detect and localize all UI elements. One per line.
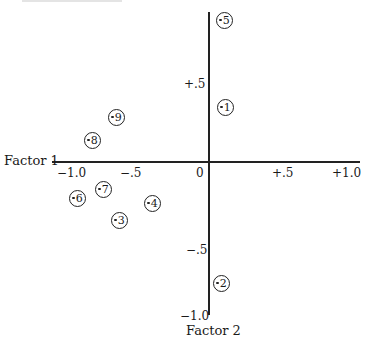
y-tick-plus-half: +.5 bbox=[184, 78, 206, 90]
data-point-5: 5 bbox=[216, 12, 233, 29]
x-tick-plus-1: +1.0 bbox=[332, 167, 361, 179]
point-label: 5 bbox=[223, 14, 230, 27]
point-label: 3 bbox=[118, 214, 125, 227]
x-axis-title: Factor 1 bbox=[4, 155, 59, 167]
x-tick-zero: 0 bbox=[196, 167, 204, 179]
factor-1-axis bbox=[52, 161, 360, 163]
data-point-2: 2 bbox=[213, 275, 230, 292]
y-tick-minus-half: −.5 bbox=[186, 244, 208, 256]
point-label: 2 bbox=[220, 277, 227, 290]
data-point-4: 4 bbox=[144, 195, 161, 212]
dot-marker-icon bbox=[147, 202, 150, 205]
y-tick-minus-1: −1.0 bbox=[180, 310, 209, 322]
dot-marker-icon bbox=[98, 188, 101, 191]
dot-marker-icon bbox=[114, 219, 117, 222]
point-label: 4 bbox=[151, 197, 158, 210]
dot-marker-icon bbox=[72, 197, 75, 200]
point-label: 9 bbox=[115, 111, 122, 124]
dot-marker-icon bbox=[220, 106, 223, 109]
data-point-9: 9 bbox=[108, 109, 125, 126]
y-axis-title: Factor 2 bbox=[186, 325, 241, 337]
dot-marker-icon bbox=[111, 116, 114, 119]
point-label: 7 bbox=[102, 183, 109, 196]
x-tick-minus-1: −1.0 bbox=[57, 167, 86, 179]
x-tick-plus-half: +.5 bbox=[272, 167, 294, 179]
dot-marker-icon bbox=[87, 139, 90, 142]
data-point-1: 1 bbox=[217, 99, 234, 116]
data-point-6: 6 bbox=[69, 190, 86, 207]
dot-marker-icon bbox=[216, 282, 219, 285]
x-tick-minus-half: −.5 bbox=[120, 167, 142, 179]
factor-2-axis bbox=[208, 12, 210, 315]
point-label: 8 bbox=[91, 134, 98, 147]
data-point-3: 3 bbox=[111, 212, 128, 229]
point-label: 1 bbox=[224, 101, 231, 114]
cropped-text-fragment bbox=[22, 0, 122, 2]
point-label: 6 bbox=[76, 192, 83, 205]
dot-marker-icon bbox=[219, 19, 222, 22]
data-point-7: 7 bbox=[95, 181, 112, 198]
data-point-8: 8 bbox=[84, 132, 101, 149]
